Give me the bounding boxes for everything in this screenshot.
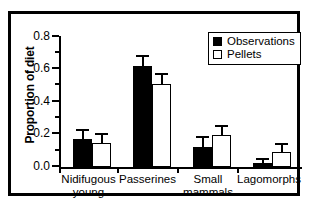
bar-pellets-nidifugous-young xyxy=(92,143,111,167)
bar-observations-passerines xyxy=(133,66,152,167)
errorbar-cap-observations-nidifugous-young xyxy=(76,129,89,131)
y-tick-0.2 xyxy=(52,132,59,134)
errorbar-cap-observations-passerines xyxy=(136,55,149,57)
x-category-line2: mammals xyxy=(178,186,238,199)
y-tick-0.0 xyxy=(52,165,59,167)
errorbar-cap-pellets-passerines xyxy=(155,73,168,75)
x-axis-line xyxy=(59,167,302,169)
y-tick-minor-0.5 xyxy=(55,83,59,85)
errorbar-observations-passerines xyxy=(142,56,144,66)
errorbar-cap-pellets-lagomorphs xyxy=(275,143,288,145)
open-square-icon xyxy=(213,50,222,59)
legend-label-observations: Observations xyxy=(227,36,295,48)
y-tick-0.4 xyxy=(52,100,59,102)
x-category-label-lagomorphs: Lagomorphs xyxy=(236,173,302,186)
errorbar-pellets-lagomorphs xyxy=(281,144,283,152)
y-axis-line xyxy=(59,36,61,167)
y-tick-minor-0.3 xyxy=(55,116,59,118)
y-tick-minor-0.7 xyxy=(55,51,59,53)
errorbar-cap-observations-lagomorphs xyxy=(256,158,269,160)
legend-entry-observations: Observations xyxy=(213,35,295,48)
y-tick-0.6 xyxy=(52,67,59,69)
bar-chart-figure: Proportion of diet 0.0 0.2 0.4 0.6 0.8 xyxy=(0,0,310,207)
errorbar-pellets-passerines xyxy=(161,74,163,84)
x-category-line1: Passerines xyxy=(116,173,179,186)
x-category-label-passerines: Passerines xyxy=(116,173,179,186)
legend-entry-pellets: Pellets xyxy=(213,48,295,61)
filled-square-icon xyxy=(213,37,222,46)
y-tick-label-0.2: 0.2 xyxy=(33,127,50,139)
errorbar-pellets-nidifugous-young xyxy=(101,134,103,143)
x-category-line1: Nidifugous xyxy=(56,173,121,186)
errorbar-cap-pellets-small-mammals xyxy=(215,125,228,127)
x-category-line1: Lagomorphs xyxy=(236,173,302,186)
y-tick-label-0.8: 0.8 xyxy=(33,30,50,42)
x-category-line2: young xyxy=(56,186,121,199)
y-tick-label-0.4: 0.4 xyxy=(33,95,50,107)
x-category-label-small-mammals: Small mammals xyxy=(178,173,238,199)
bar-observations-lagomorphs xyxy=(253,163,272,167)
y-tick-0.8 xyxy=(52,35,59,37)
chart-legend: Observations Pellets xyxy=(208,32,301,65)
y-tick-minor-0.1 xyxy=(55,149,59,151)
legend-label-pellets: Pellets xyxy=(227,49,262,61)
bar-observations-small-mammals xyxy=(193,147,212,167)
errorbar-cap-pellets-nidifugous-young xyxy=(95,133,108,135)
figure-frame: Proportion of diet 0.0 0.2 0.4 0.6 0.8 xyxy=(8,11,300,196)
x-category-label-nidifugous-young: Nidifugous young xyxy=(56,173,121,199)
errorbar-observations-small-mammals xyxy=(202,137,204,147)
bar-observations-nidifugous-young xyxy=(73,139,92,167)
errorbar-observations-nidifugous-young xyxy=(82,130,84,139)
errorbar-cap-observations-small-mammals xyxy=(196,136,209,138)
errorbar-pellets-small-mammals xyxy=(221,126,223,135)
bar-pellets-lagomorphs xyxy=(272,152,291,167)
bar-pellets-passerines xyxy=(152,84,171,167)
bar-pellets-small-mammals xyxy=(212,135,231,167)
y-tick-label-0.6: 0.6 xyxy=(33,62,50,74)
x-category-line1: Small xyxy=(178,173,238,186)
y-tick-label-0.0: 0.0 xyxy=(33,160,50,172)
